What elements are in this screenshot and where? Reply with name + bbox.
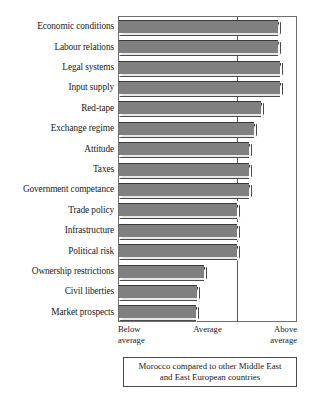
bar-bevel-right xyxy=(204,266,207,282)
bar-cap xyxy=(254,120,258,124)
category-label: Political risk xyxy=(0,244,114,258)
bar-cap xyxy=(249,161,253,165)
tick-label-line: Average xyxy=(193,324,221,334)
category-label: Economic conditions xyxy=(0,19,114,33)
bar-bevel-bottom xyxy=(119,135,258,138)
bar xyxy=(119,224,238,237)
bar-bevel-bottom xyxy=(119,257,241,260)
bar xyxy=(119,244,238,257)
category-axis-labels: Economic conditionsLabour relationsLegal… xyxy=(0,16,114,322)
category-label: Infrastructure xyxy=(0,223,114,237)
bar-bevel-right xyxy=(249,164,252,180)
category-label: Government competance xyxy=(0,182,114,196)
category-label: Taxes xyxy=(0,162,114,176)
bar-cap xyxy=(237,222,241,226)
category-label: Market prospects xyxy=(0,305,114,319)
bar xyxy=(119,40,279,53)
tick-label-line: average xyxy=(118,335,145,346)
bar-bevel-bottom xyxy=(119,33,283,36)
category-label: Attitude xyxy=(0,142,114,156)
bar-bevel-right xyxy=(237,204,240,220)
category-label: Legal systems xyxy=(0,60,114,74)
caption-line: Morocco compared to other Middle East xyxy=(139,361,282,371)
category-label: Red-tape xyxy=(0,101,114,115)
category-label: Labour relations xyxy=(0,40,114,54)
bar xyxy=(119,285,198,298)
tick-label-line: average xyxy=(270,335,297,346)
bar-bevel-right xyxy=(249,143,252,159)
bar-bevel-right xyxy=(249,184,252,200)
caption-box: Morocco compared to other Middle Eastand… xyxy=(123,357,297,387)
bar-cap xyxy=(237,242,241,246)
bar-bevel-bottom xyxy=(119,114,265,117)
bar-bevel-bottom xyxy=(119,176,253,179)
category-label: Exchange regime xyxy=(0,121,114,135)
bar-bevel-bottom xyxy=(119,196,253,199)
bar-cap xyxy=(278,18,282,22)
bar xyxy=(119,101,262,114)
tick-label-above-average: Aboveaverage xyxy=(270,324,297,345)
tick-label-line: Above xyxy=(274,324,297,334)
bar-bevel-right xyxy=(280,62,283,78)
bar xyxy=(119,203,238,216)
bar-cap xyxy=(237,201,241,205)
bar-cap xyxy=(249,140,253,144)
bar-bevel-right xyxy=(261,102,264,118)
bar xyxy=(119,163,250,176)
bar-bevel-bottom xyxy=(119,74,284,77)
category-label: Civil liberties xyxy=(0,284,114,298)
bar xyxy=(119,142,250,155)
bar-bevel-bottom xyxy=(119,237,241,240)
category-label: Trade policy xyxy=(0,203,114,217)
bar-bevel-bottom xyxy=(119,155,253,158)
bar xyxy=(119,61,281,74)
bar-bevel-bottom xyxy=(119,53,283,56)
bar-cap xyxy=(197,283,201,287)
bar-bevel-bottom xyxy=(119,318,200,321)
bar-bevel-bottom xyxy=(119,278,208,281)
bar xyxy=(119,122,255,135)
bar-cap xyxy=(249,181,253,185)
category-label: Input supply xyxy=(0,80,114,94)
bar xyxy=(119,305,197,318)
bar-cap xyxy=(280,59,284,63)
bar-cap xyxy=(280,79,284,83)
bar-bevel-bottom xyxy=(119,298,201,301)
value-axis-ticks: BelowaverageAverageAboveaverage xyxy=(118,324,297,352)
bar-cap xyxy=(204,263,208,267)
caption-line: and East European countries xyxy=(160,372,260,382)
plot-area xyxy=(118,16,297,322)
bar-bevel-right xyxy=(237,225,240,241)
bar-bevel-right xyxy=(280,82,283,98)
caption-text: Morocco compared to other Middle Eastand… xyxy=(134,361,287,383)
bar-bevel-right xyxy=(197,286,200,302)
bar-bevel-right xyxy=(196,306,199,322)
bar-cap xyxy=(278,38,282,42)
bar xyxy=(119,20,279,33)
bar xyxy=(119,81,281,94)
bar-chart: Economic conditionsLabour relationsLegal… xyxy=(0,0,321,395)
category-label: Ownership restrictions xyxy=(0,264,114,278)
bar-cap xyxy=(261,99,265,103)
bar-cap xyxy=(196,303,200,307)
bar-bevel-bottom xyxy=(119,216,241,219)
bar xyxy=(119,183,250,196)
bar-bevel-bottom xyxy=(119,94,284,97)
bar-bevel-right xyxy=(254,123,257,139)
bar xyxy=(119,265,205,278)
